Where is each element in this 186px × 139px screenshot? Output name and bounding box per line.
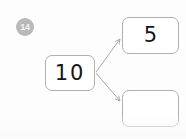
part-number-box-empty[interactable] xyxy=(122,90,179,127)
connector-to-part-a xyxy=(96,39,120,72)
connector-to-part-b xyxy=(96,73,120,101)
whole-number-box[interactable]: 10 xyxy=(45,55,95,91)
whole-number-value: 10 xyxy=(55,63,86,84)
worksheet-canvas: 14 10 5 xyxy=(0,0,186,139)
part-number-value-filled: 5 xyxy=(144,25,157,46)
part-number-box-filled[interactable]: 5 xyxy=(122,17,179,54)
